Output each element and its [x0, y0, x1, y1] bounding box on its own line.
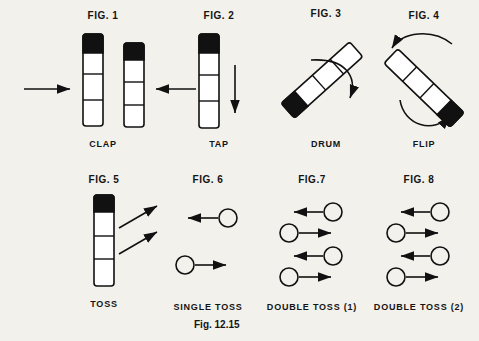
- fig-2-caption: TAP: [179, 139, 259, 149]
- fig-2-label: FIG. 2: [179, 10, 259, 21]
- fig-8-row-3: [401, 247, 449, 265]
- fig-4-caption: FLIP: [384, 139, 464, 149]
- fig-2-stick: [199, 34, 219, 128]
- fig-6-label: FIG. 6: [168, 174, 248, 185]
- fig-1-stick-right: [124, 43, 144, 127]
- plate-caption: Fig. 12.15: [194, 319, 240, 330]
- fig-5-caption: TOSS: [64, 299, 144, 309]
- fig-6-row-1: [188, 209, 237, 227]
- figure-plate: FIG. 1 FIG. 2 FIG. 3 FIG. 4 CLAP TAP DRU…: [0, 0, 479, 341]
- figure-artwork: [0, 0, 479, 341]
- fig-4-stick: [384, 49, 464, 127]
- fig-7-row-2: [280, 224, 331, 242]
- fig-7-caption: DOUBLE TOSS (1): [258, 302, 366, 312]
- fig-8-caption: DOUBLE TOSS (2): [365, 302, 473, 312]
- fig-5-arrow-lower: [119, 232, 157, 254]
- fig-7-row-4: [280, 268, 331, 286]
- fig-5-stick: [94, 195, 114, 286]
- fig-3-label: FIG. 3: [286, 8, 366, 19]
- fig-5-arrow-upper: [119, 206, 157, 228]
- fig-7-row-3: [294, 247, 342, 265]
- fig-1-stick-left: [83, 34, 103, 126]
- fig-1-label: FIG. 1: [63, 10, 143, 21]
- fig-3-stick: [281, 42, 363, 118]
- fig-4-label: FIG. 4: [384, 10, 464, 21]
- fig-6-row-2: [176, 256, 226, 274]
- fig-3-caption: DRUM: [286, 139, 366, 149]
- fig-7-row-1: [294, 203, 342, 221]
- fig-1-caption: CLAP: [63, 139, 143, 149]
- fig-5-label: FIG. 5: [64, 174, 144, 185]
- fig-6-caption: SINGLE TOSS: [158, 302, 258, 312]
- fig-4-curved-arrow-top: [392, 34, 452, 48]
- fig-8-row-4: [387, 268, 438, 286]
- fig-8-row-2: [387, 224, 438, 242]
- fig-8-row-1: [401, 203, 449, 221]
- fig-8-label: FIG. 8: [379, 174, 459, 185]
- fig-7-label: FIG.7: [272, 174, 352, 185]
